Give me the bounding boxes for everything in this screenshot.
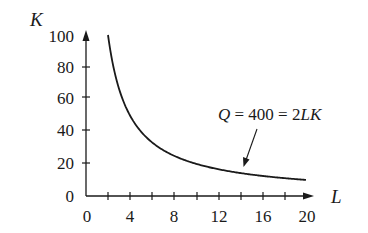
y-tick-label: 100 <box>49 27 75 46</box>
y-axis-label: K <box>29 9 44 30</box>
y-tick-label: 60 <box>57 89 74 108</box>
y-tick-label: 80 <box>57 58 74 77</box>
isoquant-chart: 100 80 60 40 20 0 0 4 8 12 16 20 K L Q =… <box>0 0 368 233</box>
curve-annotation: Q = 400 = 2LK <box>218 105 323 124</box>
y-tick-label: 20 <box>57 154 74 173</box>
x-tick-label: 4 <box>126 207 135 226</box>
annotation-arrow-icon <box>243 157 250 167</box>
x-tick-label: 8 <box>170 207 179 226</box>
y-axis-arrow-icon <box>83 30 90 41</box>
x-tick-label: 0 <box>83 207 92 226</box>
x-axis-arrow-icon <box>303 193 314 200</box>
x-axis-label: L <box>330 186 342 207</box>
x-tick-label: 16 <box>255 207 272 226</box>
y-tick-label: 40 <box>57 121 74 140</box>
annotation-pointer <box>246 129 257 160</box>
x-tick-label: 20 <box>299 207 316 226</box>
y-tick-label: 0 <box>66 187 75 206</box>
x-tick-label: 12 <box>211 207 228 226</box>
